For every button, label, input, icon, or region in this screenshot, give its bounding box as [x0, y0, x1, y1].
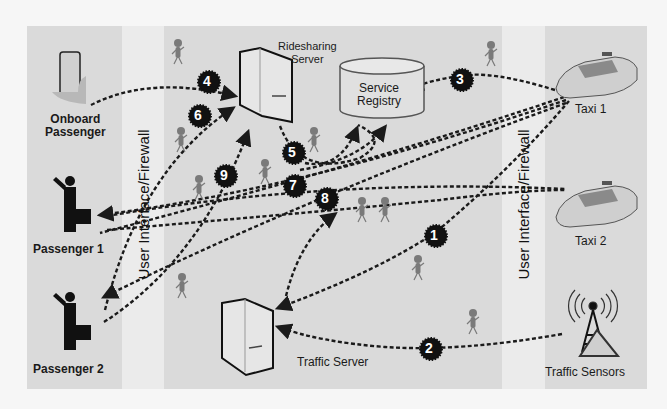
step-6-badge: 6: [194, 109, 202, 122]
traffic-server-label: Traffic Server: [297, 356, 368, 369]
taxi-1-label: Taxi 1: [575, 103, 606, 116]
step-7-badge: 7: [289, 179, 297, 192]
step-5-badge: 5: [288, 146, 296, 159]
step-8-badge: 8: [321, 192, 329, 205]
onboard-passenger-label: Onboard Passenger: [45, 113, 106, 139]
step-4-badge: 4: [203, 75, 211, 88]
passenger-1-label: Passenger 1: [33, 243, 104, 256]
service-registry-label: Service Registry: [357, 82, 401, 108]
firewall-label-right: User Interface/Firewall: [515, 130, 532, 280]
ridesharing-server-label: Ridesharing Server: [278, 40, 337, 66]
step-3-badge: 3: [456, 73, 464, 86]
firewall-label-left: User Interface/Firewall: [135, 130, 152, 280]
step-2-badge: 2: [425, 342, 433, 355]
passenger-2-label: Passenger 2: [33, 363, 104, 376]
taxi-2-label: Taxi 2: [575, 235, 606, 248]
step-9-badge: 9: [220, 169, 228, 182]
traffic-sensors-label: Traffic Sensors: [545, 366, 625, 379]
step-1-badge: 1: [430, 229, 438, 242]
